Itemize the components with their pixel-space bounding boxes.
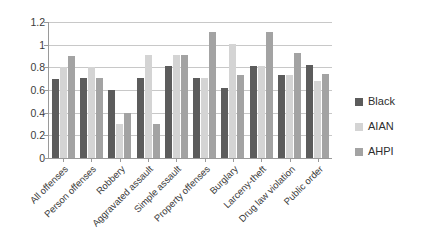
bar[interactable] [181, 55, 188, 158]
x-axis-label-slot: Public order [304, 162, 332, 248]
y-axis-tick-label: 0.6 [3, 85, 45, 96]
y-axis-tick-label: 0.4 [3, 107, 45, 118]
bar[interactable] [116, 124, 123, 158]
bar-group [106, 22, 134, 158]
bar[interactable] [88, 67, 95, 158]
bar[interactable] [193, 78, 200, 158]
bar[interactable] [229, 44, 236, 158]
bar[interactable] [294, 53, 301, 158]
bar-groups [49, 22, 332, 158]
legend-item[interactable]: AIAN [355, 121, 395, 132]
legend-item[interactable]: AHPI [355, 146, 395, 157]
legend-label: Black [368, 96, 395, 107]
bar[interactable] [286, 75, 293, 158]
legend-item[interactable]: Black [355, 96, 395, 107]
plot-area [49, 22, 332, 158]
bar[interactable] [153, 124, 160, 158]
y-axis-tick-label: 0 [3, 153, 45, 164]
x-axis-label-slot: Person offenses [77, 162, 105, 248]
bar[interactable] [209, 32, 216, 158]
bar[interactable] [124, 113, 131, 158]
bar[interactable] [201, 78, 208, 158]
bar[interactable] [137, 78, 144, 158]
bar[interactable] [237, 75, 244, 158]
bar-group [162, 22, 190, 158]
bar[interactable] [68, 56, 75, 158]
bar-group [190, 22, 218, 158]
bar-group [247, 22, 275, 158]
legend-swatch-icon [355, 148, 363, 156]
bar[interactable] [221, 88, 228, 158]
bar-group [77, 22, 105, 158]
bar[interactable] [165, 66, 172, 158]
bar-group [275, 22, 303, 158]
bar[interactable] [278, 75, 285, 158]
legend: BlackAIANAHPI [355, 96, 395, 157]
bar-group [304, 22, 332, 158]
bar-group [219, 22, 247, 158]
bar-group [134, 22, 162, 158]
legend-swatch-icon [355, 98, 363, 106]
legend-swatch-icon [355, 123, 363, 131]
y-axis-tick-label: 1.2 [3, 17, 45, 28]
bar[interactable] [96, 78, 103, 158]
bar[interactable] [80, 78, 87, 158]
bar[interactable] [173, 55, 180, 158]
bar[interactable] [108, 90, 115, 158]
bar-group [49, 22, 77, 158]
x-axis-label-slot: Property offenses [190, 162, 218, 248]
legend-label: AHPI [368, 146, 394, 157]
bar[interactable] [266, 32, 273, 158]
y-axis: 00.20.40.60.811.2 [0, 22, 45, 158]
y-axis-tick-label: 0.2 [3, 130, 45, 141]
bar[interactable] [258, 66, 265, 158]
bar-chart: 00.20.40.60.811.2 All offensesPerson off… [0, 0, 431, 251]
y-axis-tick-label: 0.8 [3, 62, 45, 73]
y-axis-tick-label: 1 [3, 39, 45, 50]
bar[interactable] [306, 65, 313, 158]
bar[interactable] [145, 55, 152, 158]
bar[interactable] [250, 66, 257, 158]
bar[interactable] [52, 79, 59, 158]
bar[interactable] [314, 81, 321, 158]
bar[interactable] [60, 67, 67, 158]
legend-label: AIAN [368, 121, 394, 132]
bar[interactable] [322, 74, 329, 158]
x-axis-labels: All offensesPerson offensesRobberyAggrav… [49, 162, 332, 248]
